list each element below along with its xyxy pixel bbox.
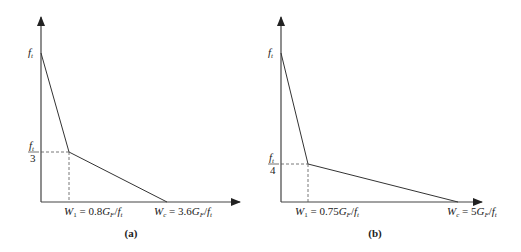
- knee-num-b: ft: [269, 151, 275, 165]
- w1-label-a: W1 = 0.8GF/ft: [64, 205, 124, 219]
- softening-curve-b: [281, 53, 458, 202]
- ft-label-b: ft: [268, 46, 274, 60]
- wc-label-a: Wc = 3.6GF/ft: [154, 205, 213, 219]
- caption-b: (b): [368, 227, 382, 240]
- w1-label-b: W1 = 0.75GF/ft: [295, 205, 360, 219]
- wc-label-b: Wc = 5GF/ft: [447, 205, 498, 219]
- knee-num-a: ft: [29, 139, 35, 153]
- softening-curve-a: [41, 53, 167, 202]
- panel-b: ft ft 4 W1 = 0.75GF/ft Wc = 5GF/ft (b): [268, 17, 498, 240]
- knee-den-a: 3: [30, 152, 36, 164]
- ft-label-a: ft: [28, 46, 34, 60]
- softening-curves-figure: ft ft 3 W1 = 0.8GF/ft Wc = 3.6GF/ft (a) …: [0, 0, 521, 252]
- panel-a: ft ft 3 W1 = 0.8GF/ft Wc = 3.6GF/ft (a): [28, 17, 240, 240]
- knee-den-b: 4: [270, 164, 276, 176]
- caption-a: (a): [125, 227, 138, 240]
